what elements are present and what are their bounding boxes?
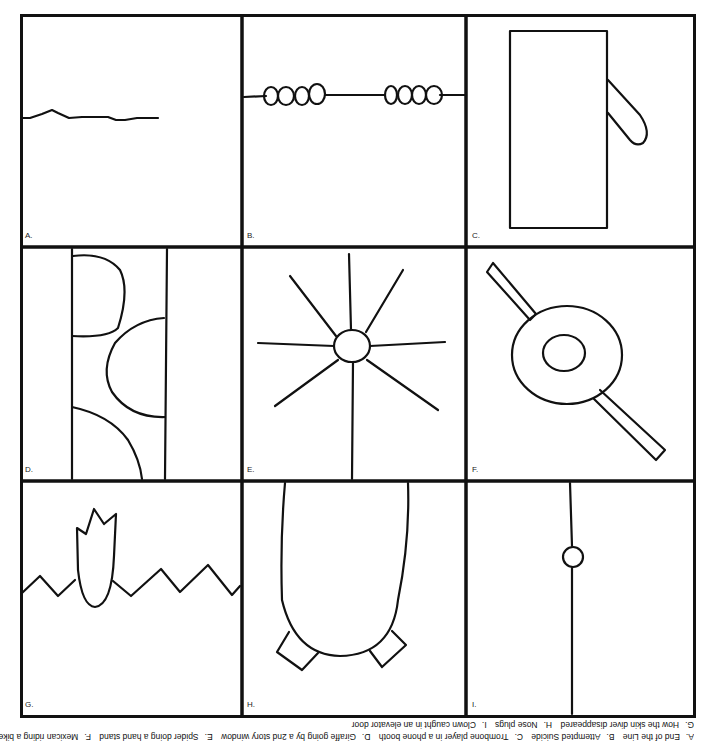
panel-label-d: D.: [25, 465, 33, 474]
panel-label-b: B.: [247, 231, 255, 240]
answer-letter: G.: [685, 720, 694, 730]
panel-e-drawing: [258, 254, 445, 479]
panel-label-c: C.: [472, 231, 480, 240]
answer-text: Attempted Suicide: [531, 732, 600, 742]
panel-label-g: G.: [25, 700, 33, 709]
answer-text: Nose plugs: [495, 720, 538, 730]
panel-i-drawing: [563, 483, 583, 714]
panel-c-drawing: [510, 31, 647, 228]
panel-g-drawing: [22, 509, 240, 607]
panel-label-a: A.: [25, 231, 33, 240]
answer-letter: B.: [606, 732, 614, 742]
caption-line-2: G.How the skin diver disappeared H.Nose …: [8, 719, 694, 731]
answer-text: Trombone player in a phone booth: [379, 732, 509, 742]
answer-text: Spider doing a hand stand: [99, 732, 198, 742]
answer-letter: H.: [544, 720, 553, 730]
panel-label-h: H.: [247, 700, 255, 709]
answer-text: Giraffe going by a 2nd story window: [221, 732, 356, 742]
answer-key-caption: A.End of the Line B.Attempted Suicide C.…: [8, 717, 694, 743]
answer-letter: F.: [84, 732, 91, 742]
panel-f-drawing: [487, 263, 665, 460]
answer-letter: E.: [205, 732, 213, 742]
answer-letter: A.: [686, 732, 694, 742]
answer-text: Clown caught in an elevator door: [352, 720, 476, 730]
answer-letter: D.: [362, 732, 371, 742]
answer-letter: C.: [515, 732, 524, 742]
panel-h-drawing: [277, 483, 408, 670]
droodle-drawings: [0, 0, 706, 744]
answer-letter: I.: [482, 720, 487, 730]
panel-b-drawing: [244, 84, 466, 105]
panel-d-drawing: [72, 249, 167, 479]
answer-text: How the skin diver disappeared: [560, 720, 679, 730]
panel-label-i: I.: [472, 700, 476, 709]
panel-label-f: F.: [472, 465, 478, 474]
answer-text: Mexican riding a bike: [0, 732, 78, 742]
caption-line-1: A.End of the Line B.Attempted Suicide C.…: [8, 731, 694, 743]
answer-text: End of the Line: [623, 732, 680, 742]
panel-a-drawing: [22, 110, 158, 120]
panel-label-e: E.: [247, 465, 255, 474]
